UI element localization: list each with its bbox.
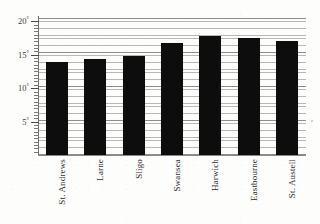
degree-symbol: ° [27,116,29,122]
y-axis-tick-value: 20 [18,17,27,27]
y-axis-minor-tick [34,118,39,119]
x-axis-tick-label: St. Austell [287,159,297,198]
y-axis-minor-tick [34,81,39,82]
caption-text: Average daytime temperature [14,0,102,1]
y-axis-major-tick [31,55,39,56]
y-axis-minor-tick [34,65,39,66]
y-axis-minor-tick [34,41,39,42]
bar [123,56,145,155]
degree-symbol: ° [27,83,29,89]
y-axis-tick-value: 10 [18,84,27,94]
y-axis-minor-tick [34,135,39,136]
y-axis-minor-tick [34,92,39,93]
y-axis-major-tick [31,122,39,123]
y-axis-minor-tick [34,75,39,76]
x-axis-tick-label: Eastbourne [249,159,259,201]
y-axis-major-tick [31,88,39,89]
x-axis-tick-label: Sligo [134,159,144,179]
bar [276,41,298,155]
y-axis-minor-tick [34,85,39,86]
bar-chart-figure: Average daytime temperature 5°10°15°20° … [0,0,320,224]
bar [238,38,260,155]
bar [199,36,221,155]
y-axis-minor-tick [34,138,39,139]
y-axis-minor-tick [34,31,39,32]
y-axis-minor-tick [34,112,39,113]
x-axis-line [38,155,306,156]
x-axis-tick-label: St. Andrews [57,159,67,205]
y-axis-minor-tick [34,105,39,106]
y-axis-minor-tick [34,61,39,62]
y-axis-minor-tick [34,35,39,36]
y-axis-minor-tick [34,48,39,49]
y-axis-minor-tick [34,102,39,103]
y-axis-tick-label: 5° [22,116,29,127]
y-axis-minor-tick [34,95,39,96]
y-axis-tick-label: 15° [18,49,29,60]
degree-symbol: ° [27,49,29,55]
y-axis-minor-tick [34,28,39,29]
x-axis-tick-label: Larne [95,159,105,181]
y-axis-minor-tick [34,58,39,59]
y-axis-minor-tick [34,128,39,129]
y-axis-minor-tick [34,148,39,149]
y-axis-tick-label: 10° [18,83,29,94]
y-axis-minor-tick [34,98,39,99]
bar [161,43,183,155]
y-axis-minor-tick [34,25,39,26]
cropped-caption-strip: Average daytime temperature [0,0,320,7]
y-axis-minor-tick [34,68,39,69]
plot-area: 5°10°15°20° [38,18,306,155]
bar [46,62,68,155]
y-axis-minor-tick [34,51,39,52]
y-axis-minor-tick [34,71,39,72]
bar [84,59,106,155]
stray-scan-mark [311,120,313,122]
x-axis-tick-label: Harwich [210,159,220,191]
y-axis-minor-tick [34,78,39,79]
degree-symbol: ° [27,16,29,22]
y-axis-major-tick [31,21,39,22]
y-axis-minor-tick [34,115,39,116]
y-axis-minor-tick [34,45,39,46]
y-axis-tick-value: 15 [18,50,27,60]
y-axis-minor-tick [34,145,39,146]
y-axis-minor-tick [34,108,39,109]
y-axis-minor-tick [34,142,39,143]
y-axis-minor-tick [34,38,39,39]
x-axis-tick-label: Swansea [172,159,182,192]
y-axis-tick-label: 20° [18,16,29,27]
y-axis-minor-tick [34,125,39,126]
y-axis-minor-tick [34,132,39,133]
y-axis-minor-tick [34,152,39,153]
